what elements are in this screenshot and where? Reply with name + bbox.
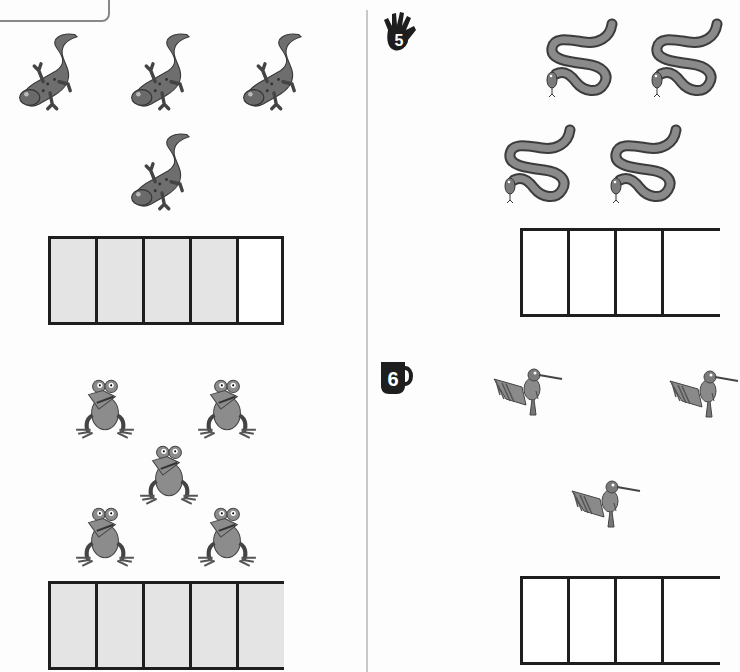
frame-cell[interactable] [570, 231, 617, 314]
frame-cell[interactable] [145, 584, 192, 667]
lizard-icon [122, 130, 202, 220]
snake-icon [540, 18, 620, 102]
exercise-6-badge: 6 [381, 362, 415, 394]
five-frame-hummingbirds [520, 576, 720, 665]
frame-cell[interactable] [51, 584, 98, 667]
hummingbird-icon [492, 360, 564, 426]
hand-icon: 5 [380, 10, 420, 54]
frame-cell[interactable] [239, 239, 284, 322]
snake-icon [645, 18, 725, 102]
hummingbird-icon [570, 472, 642, 538]
frame-cell[interactable] [192, 239, 239, 322]
frame-cell[interactable] [98, 584, 145, 667]
frog-icon [74, 374, 136, 440]
frame-cell[interactable] [51, 239, 98, 322]
five-frame-lizards [48, 236, 284, 325]
lizard-icon [10, 30, 90, 120]
five-frame-frogs [48, 581, 284, 670]
frame-cell[interactable] [664, 231, 711, 314]
frame-cell[interactable] [664, 579, 711, 662]
mug-icon: 6 [381, 362, 415, 394]
five-frame-snakes [520, 228, 720, 317]
frame-cell[interactable] [523, 579, 570, 662]
frame-cell[interactable] [145, 239, 192, 322]
frame-cell[interactable] [617, 579, 664, 662]
lizard-icon [234, 30, 314, 120]
column-divider [366, 10, 368, 672]
page-corner-tab [0, 0, 110, 22]
frame-cell[interactable] [617, 231, 664, 314]
frame-cell[interactable] [98, 239, 145, 322]
frog-icon [74, 502, 136, 568]
svg-text:6: 6 [387, 368, 398, 390]
frog-icon [138, 440, 200, 506]
frame-cell[interactable] [523, 231, 570, 314]
lizard-icon [122, 30, 202, 120]
svg-text:5: 5 [395, 32, 404, 49]
frog-icon [196, 374, 258, 440]
exercise-5-badge: 5 [380, 10, 420, 54]
frame-cell[interactable] [570, 579, 617, 662]
snake-icon [604, 124, 684, 208]
frog-icon [196, 502, 258, 568]
snake-icon [498, 124, 578, 208]
hummingbird-icon [668, 362, 740, 428]
frame-cell[interactable] [192, 584, 239, 667]
frame-cell[interactable] [239, 584, 284, 667]
